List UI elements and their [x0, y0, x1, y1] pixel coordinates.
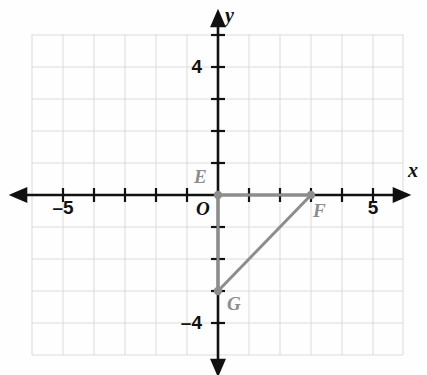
point-f-marker	[307, 191, 315, 199]
y-tick-label-pos4: 4	[180, 57, 202, 76]
point-label-e: E	[194, 167, 207, 186]
point-g-marker	[214, 287, 222, 295]
triangle-efg-segments	[218, 195, 311, 291]
coordinate-plane-figure: y x –5 5 4 –4 O E F G	[0, 0, 427, 375]
y-tick-label-neg4: –4	[162, 313, 202, 332]
origin-label: O	[196, 199, 210, 218]
point-label-f: F	[313, 201, 326, 220]
point-label-g: G	[227, 294, 241, 313]
coordinate-plane-svg	[0, 0, 427, 375]
x-tick-label-pos5: 5	[353, 198, 393, 217]
point-e-marker	[214, 191, 222, 199]
y-axis-label: y	[225, 5, 234, 25]
segment-g-f	[218, 195, 311, 291]
x-tick-label-neg5: –5	[43, 198, 83, 217]
x-axis-label: x	[408, 160, 418, 180]
